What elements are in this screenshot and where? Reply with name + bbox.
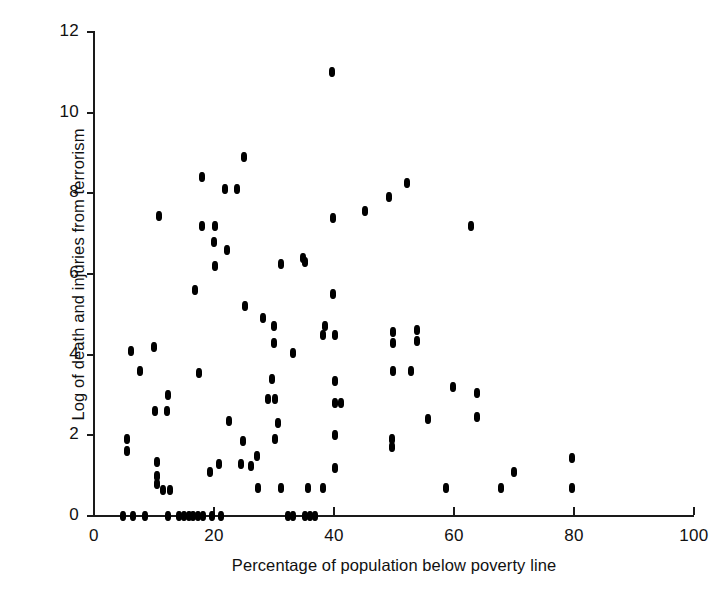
data-point — [212, 261, 218, 271]
data-point — [200, 511, 206, 521]
data-point — [271, 338, 277, 348]
data-point — [414, 336, 420, 346]
data-point — [498, 483, 504, 493]
data-point — [199, 172, 205, 182]
data-point — [474, 388, 480, 398]
data-point — [332, 463, 338, 473]
data-point — [222, 184, 228, 194]
x-axis-label: Percentage of population below poverty l… — [94, 556, 694, 575]
data-point — [468, 221, 474, 231]
data-point — [312, 511, 318, 521]
data-point — [130, 511, 136, 521]
data-point — [137, 366, 143, 376]
data-point — [192, 285, 198, 295]
data-point — [154, 457, 160, 467]
data-point — [330, 289, 336, 299]
data-point — [212, 221, 218, 231]
data-point — [151, 342, 157, 352]
data-point — [128, 346, 134, 356]
data-point — [443, 483, 449, 493]
data-point — [278, 259, 284, 269]
data-point — [248, 461, 254, 471]
data-point — [390, 366, 396, 376]
data-point — [142, 511, 148, 521]
y-axis-label: Log of death and injuries from terrorism — [69, 40, 88, 510]
data-point — [338, 398, 344, 408]
data-point — [160, 485, 166, 495]
data-point — [290, 348, 296, 358]
data-point — [216, 459, 222, 469]
data-point — [156, 211, 162, 221]
data-point — [290, 511, 296, 521]
data-point — [302, 257, 308, 267]
data-point — [240, 436, 246, 446]
data-point — [305, 483, 311, 493]
data-point — [450, 382, 456, 392]
data-point — [242, 301, 248, 311]
data-point — [226, 416, 232, 426]
data-point — [414, 325, 420, 335]
data-point — [272, 394, 278, 404]
data-point — [260, 313, 266, 323]
data-point — [332, 430, 338, 440]
data-point — [124, 434, 130, 444]
scatter-plot-figure: 020406080100 024681012 Percentage of pop… — [0, 0, 728, 612]
data-point — [332, 398, 338, 408]
data-point — [165, 390, 171, 400]
data-point — [404, 178, 410, 188]
data-point — [124, 446, 130, 456]
data-point — [390, 327, 396, 337]
data-point — [322, 321, 328, 331]
data-point — [390, 338, 396, 348]
data-point — [165, 511, 171, 521]
data-point — [278, 483, 284, 493]
data-point — [275, 418, 281, 428]
data-point — [265, 394, 271, 404]
data-point — [234, 184, 240, 194]
data-point — [511, 467, 517, 477]
data-point — [224, 245, 230, 255]
data-point — [386, 192, 392, 202]
data-point — [254, 451, 260, 461]
data-point — [164, 406, 170, 416]
data-point — [154, 471, 160, 481]
data-point — [218, 511, 224, 521]
data-point — [332, 330, 338, 340]
data-point — [255, 483, 261, 493]
data-point — [120, 511, 126, 521]
data-point — [207, 467, 213, 477]
data-point — [269, 374, 275, 384]
data-point — [199, 221, 205, 231]
data-point — [329, 67, 335, 77]
data-point — [196, 368, 202, 378]
data-point — [425, 414, 431, 424]
data-point — [238, 459, 244, 469]
data-point — [271, 321, 277, 331]
data-point — [320, 483, 326, 493]
data-point — [211, 237, 217, 247]
data-point — [569, 453, 575, 463]
data-point — [152, 406, 158, 416]
data-point — [408, 366, 414, 376]
data-point — [362, 206, 368, 216]
data-points-layer — [0, 0, 728, 612]
data-point — [332, 376, 338, 386]
data-point — [474, 412, 480, 422]
data-point — [241, 152, 247, 162]
data-point — [167, 485, 173, 495]
data-point — [569, 483, 575, 493]
data-point — [272, 434, 278, 444]
data-point — [209, 511, 215, 521]
data-point — [330, 213, 336, 223]
